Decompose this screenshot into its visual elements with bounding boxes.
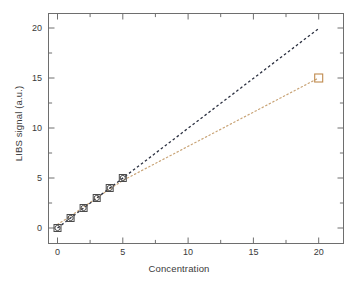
x-minor-ticks <box>90 14 286 244</box>
y-tick-label-0: 0 <box>20 223 42 233</box>
x-axis-title: Concentration <box>0 263 358 274</box>
series-linear-fit-line <box>58 29 319 229</box>
x-tick-label-0: 0 <box>55 247 60 257</box>
x-tick-label-20: 20 <box>314 247 324 257</box>
chart-plot-area <box>0 0 358 285</box>
x-tick-label-10: 10 <box>183 247 193 257</box>
y-axis-title: LIBS signal (a.u.) <box>13 54 24 194</box>
x-major-ticks <box>58 14 319 244</box>
x-tick-label-5: 5 <box>120 247 125 257</box>
x-tick-label-15: 15 <box>248 247 258 257</box>
series-high-concentration-marker <box>315 74 323 82</box>
y-tick-label-20: 20 <box>20 23 42 33</box>
axis-frame <box>49 14 344 244</box>
chart-figure: 0 5 10 15 20 0 5 10 15 20 LIBS signal (a… <box>0 0 358 285</box>
y-minor-ticks <box>49 53 344 203</box>
series-saturation-fit-line <box>58 78 319 225</box>
